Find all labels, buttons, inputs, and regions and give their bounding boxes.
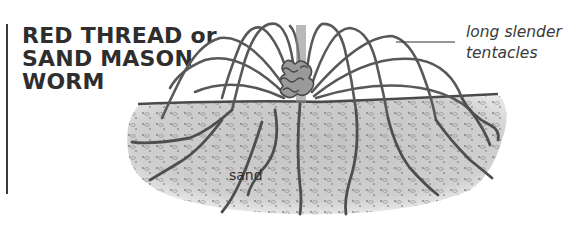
sand-layer: [127, 94, 506, 214]
tentacles-label-line-1: long slender: [466, 22, 562, 43]
tentacles-label-line-2: tentacles: [466, 43, 562, 64]
tentacles-label: long slender tentacles: [466, 22, 562, 64]
sand-label: sand: [229, 167, 263, 183]
